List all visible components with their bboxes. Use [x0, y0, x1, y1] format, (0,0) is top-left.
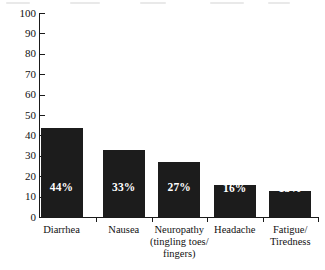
- x-axis-tick: [207, 218, 208, 222]
- bar-value-label: 44%: [41, 181, 83, 193]
- scan-artifact: [268, 2, 290, 4]
- y-axis-tick: [40, 54, 45, 55]
- bar-value-label: 33%: [103, 181, 145, 193]
- x-axis-tick: [152, 218, 153, 222]
- bar-chart: 0102030405060708090100 44%33%27%16%13% D…: [0, 0, 325, 270]
- y-axis-tick-label: 70: [6, 69, 36, 80]
- bar: 44%: [41, 128, 83, 218]
- scan-artifact: [70, 2, 100, 4]
- scan-artifact: [140, 2, 166, 4]
- y-axis-tick-label: 0: [6, 212, 36, 223]
- y-axis-tick-label: 50: [6, 110, 36, 121]
- bar: 13%: [269, 191, 311, 218]
- category-label-line: (tingling toes/: [134, 236, 224, 248]
- y-axis-tick-label: 100: [6, 8, 36, 19]
- scan-artifact: [6, 2, 30, 4]
- y-axis-tick-label: 20: [6, 171, 36, 182]
- bar-value-label: 27%: [158, 181, 200, 193]
- y-axis-tick: [40, 74, 45, 75]
- y-axis-tick-label: 10: [6, 191, 36, 202]
- y-axis-tick-label: 30: [6, 150, 36, 161]
- bar: 16%: [214, 185, 256, 218]
- category-label: Fatigue/Tiredness: [245, 224, 325, 248]
- y-axis-tick: [40, 13, 45, 14]
- y-axis-tick-label: 40: [6, 130, 36, 141]
- x-axis-tick: [263, 218, 264, 222]
- bar-value-label: 13%: [269, 182, 311, 194]
- y-axis-tick: [40, 95, 45, 96]
- y-axis-tick: [40, 115, 45, 116]
- bar-value-label: 16%: [214, 182, 256, 194]
- x-axis-tick: [318, 218, 319, 222]
- y-axis-tick: [40, 33, 45, 34]
- category-label-line: fingers): [134, 248, 224, 260]
- y-axis-tick-label: 80: [6, 48, 36, 59]
- bar: 33%: [103, 150, 145, 217]
- x-axis-tick: [96, 218, 97, 222]
- y-axis-tick-label: 60: [6, 89, 36, 100]
- scan-artifact: [210, 2, 244, 4]
- bar: 27%: [158, 162, 200, 217]
- category-label-line: Fatigue/: [245, 224, 325, 236]
- category-label-line: Tiredness: [245, 236, 325, 248]
- y-axis-tick-label: 90: [6, 28, 36, 39]
